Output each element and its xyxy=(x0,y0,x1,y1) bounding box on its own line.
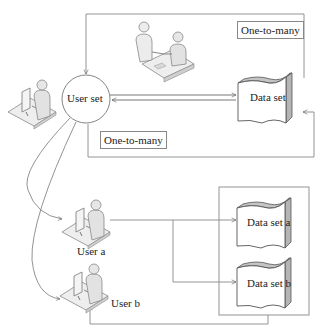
person-at-computer-icon xyxy=(62,200,110,249)
top-one-to-many-label: One-to-many xyxy=(237,21,304,39)
middle-one-to-many-label: One-to-many xyxy=(100,131,167,149)
person-at-computer-icon xyxy=(8,80,56,129)
user-set-to-data-set-link xyxy=(110,95,236,100)
user-a-label: User a xyxy=(77,246,105,257)
person-at-computer-icon xyxy=(60,264,108,313)
user-set-label: User set xyxy=(67,93,103,104)
data-set-b-label: Data set b xyxy=(247,278,291,289)
user-set-to-user-a-curve xyxy=(27,118,70,219)
user-a-to-data-sets-connector xyxy=(110,220,236,282)
data-set-a-label: Data set a xyxy=(247,217,290,228)
user-set-to-user-b-curve xyxy=(32,122,76,299)
two-people-at-table-icon xyxy=(136,22,194,82)
data-set-label: Data set xyxy=(250,92,286,103)
user-b-label: User b xyxy=(111,298,140,309)
